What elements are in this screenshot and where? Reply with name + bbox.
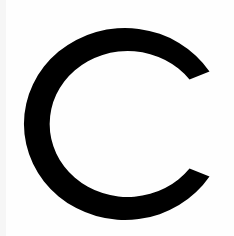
letter-c-icon: C <box>0 0 234 236</box>
left-edge-shade <box>0 0 6 236</box>
letter-c-graphic: C <box>0 0 234 236</box>
